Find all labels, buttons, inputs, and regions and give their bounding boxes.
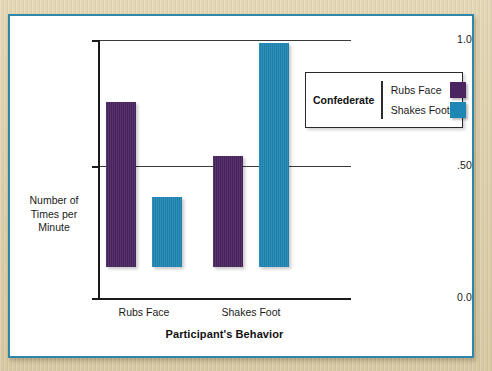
legend-title: Confederate — [306, 94, 381, 106]
bar-shakes-foot-shakes-foot — [259, 43, 289, 267]
bar-rubs-face-shakes-foot — [152, 197, 182, 267]
y-axis-title: Number of Times per Minute — [16, 194, 92, 235]
x-axis-title: Participant's Behavior — [98, 328, 351, 340]
y-tick-label-top: 1.0 — [398, 33, 472, 45]
purple-swatch-icon — [450, 82, 466, 98]
legend-item-rubs-face: Rubs Face — [391, 82, 472, 98]
x-axis-line — [98, 298, 351, 300]
legend-entries: Rubs Face Shakes Foot — [383, 82, 472, 118]
bar-shakes-foot-rubs-face — [213, 156, 243, 267]
y-axis-title-line-1: Number of — [16, 194, 92, 208]
y-axis-title-line-2: Times per — [16, 208, 92, 222]
bar-rubs-face-rubs-face — [106, 102, 136, 267]
y-tick-mark-0.0 — [92, 298, 99, 300]
legend-item-label: Shakes Foot — [391, 104, 450, 116]
chart-legend: Confederate Rubs Face Shakes Foot — [305, 72, 463, 128]
gridline-1.0 — [98, 40, 351, 41]
bar-texture — [106, 102, 136, 267]
blue-swatch-icon — [450, 102, 466, 118]
y-tick-label-mid: .50 — [398, 159, 472, 171]
x-tick-label-shakes-foot: Shakes Foot — [196, 306, 306, 318]
y-tick-mark-0.50 — [92, 166, 99, 168]
y-tick-mark-1.0 — [92, 40, 99, 42]
bar-texture — [213, 156, 243, 267]
legend-item-shakes-foot: Shakes Foot — [391, 102, 472, 118]
bar-texture — [152, 197, 182, 267]
y-axis-line — [98, 40, 100, 299]
y-axis-title-line-3: Minute — [16, 221, 92, 235]
y-tick-label-bottom: 0.0 — [398, 291, 472, 303]
chart-plot-area: 1.0 .50 0.0 Number of Times per Minute R… — [10, 16, 472, 356]
bar-texture — [259, 43, 289, 267]
x-tick-label-rubs-face: Rubs Face — [89, 306, 199, 318]
legend-item-label: Rubs Face — [391, 84, 442, 96]
figure-card: 1.0 .50 0.0 Number of Times per Minute R… — [8, 14, 474, 358]
